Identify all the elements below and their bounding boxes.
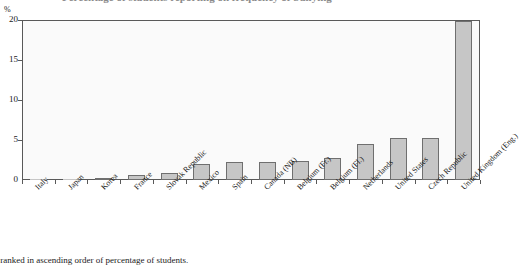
y-axis-tick-label: 10: [0, 95, 18, 104]
y-axis-tick-label: 20: [0, 15, 18, 24]
x-axis-tick: [87, 180, 88, 184]
y-axis-tick-label: 15: [0, 55, 18, 64]
y-axis-tick-label: 0: [0, 175, 18, 184]
x-axis-tick: [480, 180, 481, 184]
x-axis-category-labels: ItalyJapanKoreaFranceSlovak RepublicMexi…: [0, 186, 496, 252]
bar-slot: [128, 20, 145, 180]
x-axis-tick: [55, 180, 56, 184]
bar-slot: [30, 20, 47, 180]
x-axis-tick: [251, 180, 252, 184]
bar-slot: [259, 20, 276, 180]
bar-slot: [292, 20, 309, 180]
figure-footnote: re ranked in ascending order of percenta…: [0, 255, 496, 265]
figure-title-text: Percentage of students reporting on freq…: [62, 0, 332, 3]
x-axis-tick: [22, 180, 23, 184]
bar-slot: [390, 20, 407, 180]
x-axis-tick: [186, 180, 187, 184]
figure-title-clipped: Percentage of students reporting on freq…: [0, 0, 496, 6]
x-axis-tick: [415, 180, 416, 184]
x-axis-ticks: [22, 180, 480, 184]
x-axis-tick: [218, 180, 219, 184]
x-axis-tick: [447, 180, 448, 184]
bar-series: [22, 20, 480, 180]
bar-slot: [63, 20, 80, 180]
x-axis-tick: [349, 180, 350, 184]
x-axis-tick: [120, 180, 121, 184]
bar-slot: [161, 20, 178, 180]
bar-slot: [226, 20, 243, 180]
x-axis-tick: [382, 180, 383, 184]
x-axis-tick: [284, 180, 285, 184]
x-axis-tick: [316, 180, 317, 184]
y-axis-tick-label: 5: [0, 135, 18, 144]
x-axis-tick: [153, 180, 154, 184]
y-axis-unit-label: %: [4, 6, 11, 14]
figure-footnote-text: re ranked in ascending order of percenta…: [0, 255, 188, 265]
bar-slot: [95, 20, 112, 180]
